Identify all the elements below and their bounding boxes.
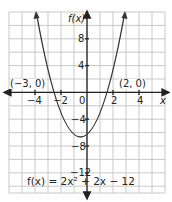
function-equation: f(x) = 2x² + 2x − 12: [27, 176, 135, 187]
x-tick-label: −2: [53, 96, 68, 106]
y-tick-label: −8: [71, 142, 86, 152]
y-tick-label: −4: [71, 115, 86, 125]
x-tick-label: 0: [79, 96, 85, 106]
y-axis-label: f(x): [68, 14, 85, 24]
x-tick-label: 4: [137, 96, 143, 106]
point-label-neg3: (−3, 0): [10, 79, 45, 89]
x-axis-label: x: [160, 96, 166, 106]
x-tick-label: 2: [111, 96, 117, 106]
x-tick-label: −4: [27, 96, 42, 106]
point-label-2: (2, 0): [119, 79, 146, 89]
y-tick-label: 8: [78, 34, 84, 44]
y-tick-label: 4: [78, 61, 84, 71]
